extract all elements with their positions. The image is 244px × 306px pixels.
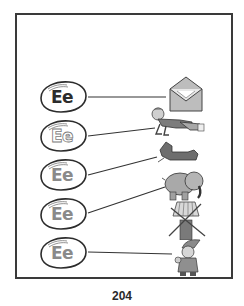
egg-label: Ee	[37, 119, 87, 152]
egg-letter-4: Ee	[37, 197, 87, 230]
page-number: 204	[0, 289, 244, 303]
egg-letter-2: Ee	[37, 119, 87, 152]
egg-label: Ee	[37, 158, 87, 191]
egg-letter-1: Ee	[37, 80, 87, 113]
elbow-arm-icon	[158, 140, 200, 164]
egg-label: Ee	[37, 236, 87, 269]
egg-label: Ee	[37, 80, 87, 113]
egg-letter-3: Ee	[37, 158, 87, 191]
egg-letter-5: Ee	[37, 236, 87, 269]
elf-icon	[172, 238, 206, 278]
windmill-crossed-out-icon	[165, 200, 207, 240]
elephant-icon	[162, 168, 206, 202]
exercise-pushup-icon	[150, 106, 206, 138]
egg-label: Ee	[37, 197, 87, 230]
